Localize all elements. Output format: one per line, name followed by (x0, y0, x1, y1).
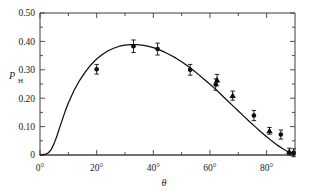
x-axis-tick-labels: 0°20°40°60°80° (36, 163, 274, 173)
x-tick-label: 80° (260, 163, 274, 173)
y-tick-label: 0.40 (18, 37, 35, 47)
x-tick-label: 20° (90, 163, 104, 173)
marker-circle (155, 47, 160, 52)
marker-triangle (214, 77, 220, 83)
y-tick-label: 0 (30, 150, 35, 160)
data-point (94, 64, 99, 74)
data-point (155, 43, 160, 55)
scatter-plot: 00.100.200.300.400.50 0°20°40°60°80° P H… (0, 0, 309, 191)
data-point (229, 91, 235, 100)
data-point (279, 130, 284, 139)
x-tick-label: 60° (203, 163, 217, 173)
x-tick-label: 0° (36, 163, 45, 173)
series-circle (94, 40, 296, 157)
marker-circle (279, 132, 284, 137)
x-axis-title-text: θ (162, 177, 167, 188)
marker-triangle (229, 92, 235, 98)
marker-triangle (266, 128, 272, 134)
x-tick-label: 40° (147, 163, 161, 173)
y-tick-label: 0.20 (18, 94, 35, 104)
y-tick-label: 0.30 (18, 65, 35, 75)
marker-circle (291, 150, 296, 155)
y-axis-title-text: P (8, 70, 15, 81)
marker-circle (188, 68, 193, 73)
x-axis-ticks (40, 13, 267, 155)
data-point (252, 110, 257, 120)
data-series (94, 40, 296, 157)
fit-curve-path (40, 45, 295, 155)
y-tick-label: 0.50 (18, 8, 35, 18)
marker-circle (131, 44, 136, 49)
data-point (266, 127, 272, 134)
marker-circle (252, 113, 257, 118)
y-tick-label: 0.10 (18, 122, 35, 132)
chart-root: 00.100.200.300.400.50 0°20°40°60°80° P H… (0, 0, 309, 191)
data-point (131, 40, 136, 52)
marker-circle (94, 67, 99, 72)
y-axis-title-subscript: H (18, 77, 23, 85)
fit-curve (40, 45, 295, 155)
